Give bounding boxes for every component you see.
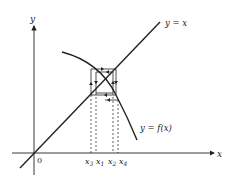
cobweb-diagram: x y 0 y = x y = f(x) x3 x1 x	[0, 0, 229, 186]
function-curve-label: y = f(x)	[139, 123, 172, 133]
iterate-label-x1: x1	[96, 157, 104, 167]
iterate-label-x4: x4	[119, 157, 128, 167]
identity-line	[20, 22, 160, 168]
identity-line-label: y = x	[164, 18, 187, 28]
x-axis-label: x	[217, 149, 222, 159]
cobweb-path	[91, 69, 118, 100]
iterate-label-x3: x3	[85, 157, 94, 167]
origin-label: 0	[37, 156, 42, 165]
y-axis-label: y	[29, 14, 36, 24]
iterate-labels: x3 x1 x2 x4	[85, 157, 128, 167]
iterate-guides	[91, 93, 118, 153]
function-curve	[62, 52, 137, 140]
iterate-label-x2: x2	[108, 157, 117, 167]
